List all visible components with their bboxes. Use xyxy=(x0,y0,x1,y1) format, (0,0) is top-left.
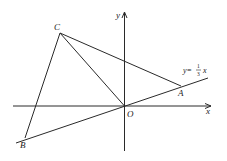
equation-prefix: y= xyxy=(182,66,192,75)
origin-label: O xyxy=(127,109,134,119)
point-label-B: B xyxy=(20,140,26,150)
equation-numerator: 1 xyxy=(197,63,200,69)
point-label-C: C xyxy=(54,22,61,32)
segment-CA xyxy=(60,33,181,86)
line-equation-label: y= 1 3 x xyxy=(182,63,207,77)
x-axis-label: x xyxy=(205,106,210,116)
y-axis-label: y xyxy=(115,10,120,20)
segment-CB xyxy=(25,33,60,138)
equation-suffix: x xyxy=(202,66,207,75)
point-label-A: A xyxy=(177,88,184,98)
segment-CO xyxy=(60,33,125,106)
coordinate-diagram: C A B O x y y= 1 3 x xyxy=(0,0,227,161)
equation-denominator: 3 xyxy=(197,71,200,77)
